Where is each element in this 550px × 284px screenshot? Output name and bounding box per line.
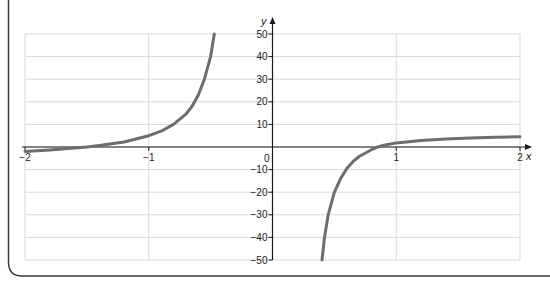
y-tick-label: 30 <box>256 74 268 85</box>
x-tick-label: −1 <box>143 152 155 163</box>
y-tick-label: 50 <box>256 29 268 40</box>
y-tick-label: −50 <box>251 255 268 266</box>
y-tick-label: −40 <box>251 232 268 243</box>
right-branch-curve <box>322 137 520 260</box>
origin-label: 0 <box>264 153 270 164</box>
x-tick-label: 1 <box>393 152 399 163</box>
y-tick-label: 10 <box>256 119 268 130</box>
left-branch-curve <box>25 34 214 152</box>
x-tick-label: −2 <box>19 152 31 163</box>
y-axis-label: y <box>260 15 268 27</box>
x-tick-label: 2 <box>517 152 523 163</box>
y-tick-label: −10 <box>251 164 268 175</box>
y-tick-label: −20 <box>251 187 268 198</box>
y-tick-label: 40 <box>256 51 268 62</box>
y-axis-arrow-icon <box>270 17 276 24</box>
chart-figure: −2−1125040302010−10−20−30−40−50 x y 0 <box>0 0 550 284</box>
x-axis-label: x <box>525 150 532 162</box>
y-tick-label: −30 <box>251 209 268 220</box>
y-tick-label: 20 <box>256 96 268 107</box>
